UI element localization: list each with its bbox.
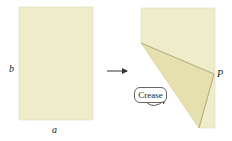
crease-callout: Crease xyxy=(134,87,167,103)
label-a: a xyxy=(52,124,57,135)
unfolded-paper xyxy=(19,7,93,120)
paper-folding-diagram xyxy=(0,0,232,141)
label-b: b xyxy=(9,63,14,74)
label-p: P xyxy=(217,68,223,79)
